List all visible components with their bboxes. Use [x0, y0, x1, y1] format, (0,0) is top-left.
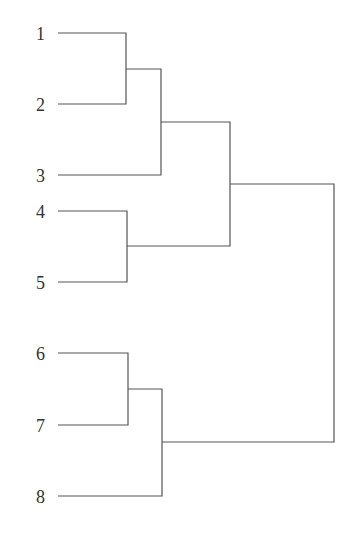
leaf-label-2: 2	[36, 95, 45, 115]
branch-67-8	[58, 389, 162, 496]
leaf-label-8: 8	[36, 487, 45, 507]
dendrogram: 1 2 3 4 5 6 7 8	[0, 0, 360, 534]
leaf-label-7: 7	[36, 416, 45, 436]
leaf-label-1: 1	[36, 24, 45, 44]
branch-12-3	[58, 69, 161, 175]
branch-123-45	[127, 122, 230, 246]
branch-root	[162, 184, 334, 442]
leaf-label-3: 3	[36, 166, 45, 186]
branch-1-2	[58, 33, 126, 104]
leaf-label-4: 4	[36, 202, 45, 222]
branch-4-5	[58, 211, 127, 282]
leaf-label-6: 6	[36, 344, 45, 364]
branch-6-7	[58, 353, 128, 425]
leaf-label-5: 5	[36, 273, 45, 293]
